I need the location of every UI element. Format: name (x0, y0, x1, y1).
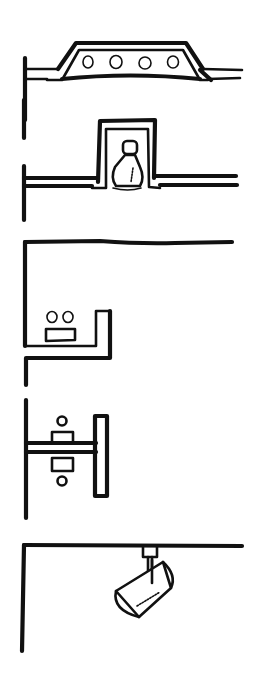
figure-wall-sconce (26, 400, 107, 518)
lower-lamp-icon (58, 477, 67, 486)
ceiling-line (25, 241, 232, 243)
track-mount (143, 547, 157, 557)
ceiling-line-upper (203, 69, 242, 70)
bracket-plate (95, 416, 107, 496)
ceiling-line-lower (208, 78, 240, 79)
lamp-tube (46, 329, 75, 341)
lamp-icon (110, 56, 122, 69)
figure-track (22, 545, 242, 651)
wall-line (22, 545, 24, 651)
bulb-icon (113, 141, 143, 190)
lower-lamp-box (52, 458, 73, 471)
fixture-diffuser (62, 76, 200, 80)
lamp-icon (47, 312, 57, 323)
figure-recessed (24, 100, 237, 220)
ceiling-track-line (24, 545, 242, 546)
lamp-icon (63, 312, 73, 323)
figure-surface-mounted (25, 43, 242, 120)
upper-lamp-box (52, 432, 73, 442)
upper-lamp-icon (58, 417, 67, 426)
lamp-icon (168, 56, 179, 68)
lighting-diagram (0, 0, 260, 676)
lamp-icon (83, 56, 93, 68)
spotlight-icon (115, 560, 172, 617)
lamp-icon (139, 57, 151, 69)
figure-cove (25, 241, 232, 385)
